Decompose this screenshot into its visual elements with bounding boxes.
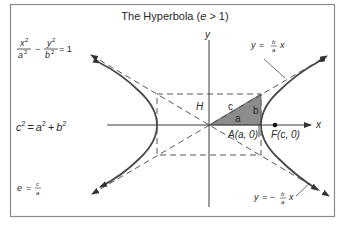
label-a: a (235, 113, 241, 124)
diagram-title: The Hyperbola (e > 1) (121, 10, 228, 22)
label-b: b (253, 105, 259, 116)
x-axis-label: x (315, 119, 322, 130)
svg-text:e: e (17, 183, 22, 193)
diagram-frame (11, 5, 335, 217)
svg-text:x: x (288, 192, 294, 202)
y-axis-label: y (204, 29, 211, 40)
svg-text:b: b (45, 50, 50, 60)
svg-text:x: x (279, 40, 285, 50)
svg-text:y: y (253, 192, 259, 202)
svg-text:−: − (35, 44, 40, 54)
vertex-label: A(a, 0) (227, 129, 258, 140)
svg-text:=: = (259, 40, 264, 50)
svg-text:= −: = − (262, 192, 275, 202)
svg-text:a: a (18, 50, 23, 60)
svg-text:c: c (36, 181, 39, 187)
focus-point (273, 123, 278, 128)
hyperbola-diagram: The Hyperbola (e > 1) x 2 a 2 − y 2 b 2 … (0, 0, 344, 228)
svg-text:=: = (26, 183, 31, 193)
svg-text:= 1: = 1 (59, 44, 72, 54)
label-c: c (228, 101, 233, 112)
svg-text:y: y (250, 40, 256, 50)
label-H: H (196, 101, 204, 112)
focus-label: F(c, 0) (271, 129, 300, 140)
